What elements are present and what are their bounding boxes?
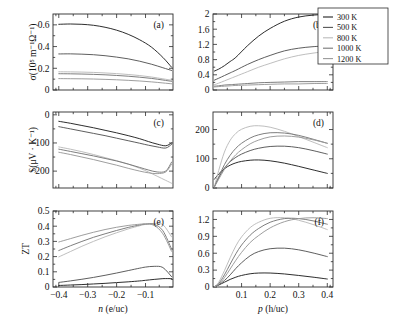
legend-label-1200K: 1200 K — [337, 55, 361, 64]
panel-e-xlabel: n (e/uc) — [98, 304, 127, 315]
panel-b-yticklabel: 0.4 — [198, 70, 210, 80]
panel-d-yticklabel: 100 — [195, 154, 210, 164]
panel-f-yticklabel: 0 — [205, 282, 210, 292]
panel-a-ylabel: σ(10⁵ m⁻¹Ω⁻¹) — [28, 24, 39, 81]
panel-a-tag: (a) — [153, 20, 164, 31]
panel-f-yticklabel: 1.2 — [198, 215, 210, 225]
panel-f-yticklabel: 0.6 — [198, 249, 210, 259]
panel-b-yticklabel: 0.8 — [198, 55, 210, 65]
panel-e-yticklabel: 0.5 — [38, 206, 50, 216]
panel-f-xticklabel: 0.1 — [236, 290, 248, 300]
panel-d-tag: (d) — [313, 118, 324, 129]
panel-e-yticklabel: 0.1 — [38, 267, 50, 277]
legend-label-1000K: 1000 K — [337, 44, 361, 53]
panel-a-yticklabel: 0 — [45, 85, 50, 95]
panel-b-yticklabel: 1.2 — [198, 40, 210, 50]
panel-e-yticklabel: 0.4 — [38, 222, 50, 232]
legend-label-500K: 500 K — [337, 23, 357, 32]
panel-c-tag: (c) — [153, 118, 164, 129]
panel-f-xlabel: p (h/uc) — [257, 304, 288, 315]
panel-a-yticklabel: 0.2 — [38, 64, 50, 74]
panel-d-yticklabel: 0 — [205, 183, 210, 193]
panel-f-tag: (f) — [315, 217, 325, 228]
panel-a-yticklabel: 0.4 — [38, 42, 50, 52]
panel-f-xticklabel: 0.2 — [264, 290, 276, 300]
panel-e-xticklabel: −0.4 — [50, 290, 67, 300]
figure-container: 00.20.40.6(a)σ(10⁵ m⁻¹Ω⁻¹)00.40.81.21.62… — [0, 0, 394, 327]
panel-e-xticklabel: −0.3 — [79, 290, 96, 300]
panel-e-tag: (e) — [153, 217, 164, 228]
panel-f-yticklabel: 0.9 — [198, 232, 210, 242]
panel-a-yticklabel: 0.6 — [38, 20, 50, 30]
panel-b-yticklabel: 1.6 — [198, 25, 210, 35]
panel-b-yticklabel: 2 — [205, 9, 210, 19]
panel-e-xticklabel: −0.2 — [108, 290, 125, 300]
panel-c-ylabel: S(μV · K⁻¹) — [28, 127, 39, 173]
panel-c-yticklabel: 0 — [45, 110, 50, 120]
legend-label-300K: 300 K — [337, 13, 357, 22]
multi-panel-figure: 00.20.40.6(a)σ(10⁵ m⁻¹Ω⁻¹)00.40.81.21.62… — [0, 0, 394, 327]
panel-e-yticklabel: 0.3 — [38, 237, 50, 247]
panel-e-yticklabel: 0.2 — [38, 252, 50, 262]
panel-e-yticklabel: 0 — [45, 282, 50, 292]
legend-label-800K: 800 K — [337, 34, 357, 43]
panel-b-yticklabel: 0 — [205, 85, 210, 95]
panel-f-yticklabel: 0.3 — [198, 265, 210, 275]
panel-f-xticklabel: 0.3 — [293, 290, 305, 300]
panel-e-ylabel: ZT — [21, 243, 31, 255]
panel-d-yticklabel: 200 — [195, 125, 210, 135]
panel-f-xticklabel: 0.4 — [321, 290, 333, 300]
panel-e-xticklabel: −0.1 — [137, 290, 154, 300]
